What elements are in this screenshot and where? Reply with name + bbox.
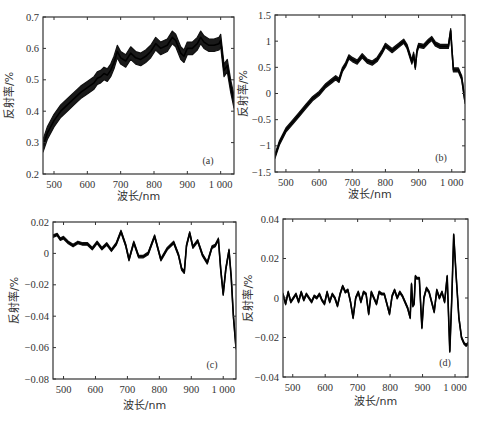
x-axis-label: 波长/nm <box>123 399 166 412</box>
x-tick-label: 500 <box>46 179 62 190</box>
x-tick-label: 900 <box>411 177 427 188</box>
y-tick-label: 0.04 <box>261 214 280 225</box>
y-tick-label: −1 <box>260 140 271 151</box>
x-tick-label: 600 <box>88 384 104 395</box>
y-tick-label: −1.5 <box>252 167 271 178</box>
x-tick-label: 1 000 <box>443 382 467 393</box>
y-tick-label: −0.04 <box>255 372 280 383</box>
subplot-c: 5006007008009001 000−0.08−0.06−0.04−0.02… <box>7 217 236 413</box>
panel-label: (b) <box>435 152 447 164</box>
subplot-b: 5006007008009001 000−1.5−1−0.500.511.5波长… <box>236 10 465 202</box>
y-tick-label: 1 <box>266 36 271 47</box>
y-tick-label: 0.3 <box>26 137 39 148</box>
figure-canvas: 5006007008009001 0000.20.30.40.50.60.7波长… <box>0 0 484 424</box>
x-tick-label: 1 000 <box>211 384 235 395</box>
y-tick-label: 0 <box>266 88 271 99</box>
y-tick-label: 0 <box>44 248 49 259</box>
spectra-lines <box>275 29 465 159</box>
axes-frame <box>53 222 236 379</box>
spectra-lines <box>283 234 468 352</box>
x-tick-label: 500 <box>278 177 294 188</box>
axes-frame <box>275 15 465 172</box>
x-tick-label: 700 <box>113 179 129 190</box>
subplot-a: 5006007008009001 0000.20.30.40.50.60.7波长… <box>2 12 234 204</box>
x-tick-label: 800 <box>151 384 167 395</box>
y-axis-label: 反射率/% <box>2 72 16 119</box>
x-axis-label: 波长/nm <box>348 188 391 201</box>
x-tick-label: 600 <box>317 382 333 393</box>
subplot-d: 5006007008009001 000−0.04−0.0200.020.04波… <box>241 214 468 409</box>
y-tick-label: 0.02 <box>31 217 49 228</box>
x-tick-label: 700 <box>344 177 360 188</box>
panel-label: (c) <box>206 359 217 371</box>
panel-label: (d) <box>439 357 451 369</box>
x-tick-label: 500 <box>56 384 72 395</box>
x-axis-label: 波长/nm <box>117 190 160 203</box>
x-tick-label: 900 <box>179 179 195 190</box>
panel-label: (a) <box>202 155 213 167</box>
y-tick-label: 0.6 <box>26 43 39 54</box>
y-tick-label: 0.02 <box>261 253 279 264</box>
y-tick-label: −0.5 <box>252 114 271 125</box>
y-tick-label: 1.5 <box>258 10 271 21</box>
y-tick-label: 0.5 <box>258 62 271 73</box>
y-axis-label: 反射率/% <box>236 70 250 117</box>
x-tick-label: 1 000 <box>209 179 233 190</box>
x-tick-label: 900 <box>183 384 199 395</box>
x-tick-label: 700 <box>350 382 366 393</box>
y-axis-label: 反射率/% <box>241 274 255 321</box>
y-tick-label: 0.2 <box>26 169 39 180</box>
spectra-lines <box>43 31 234 152</box>
y-tick-label: 0 <box>274 293 279 304</box>
x-tick-label: 800 <box>378 177 394 188</box>
x-axis-label: 波长/nm <box>354 395 397 408</box>
y-tick-label: 0.5 <box>26 74 39 85</box>
y-tick-label: −0.08 <box>25 374 49 385</box>
y-tick-label: 0.7 <box>26 12 39 23</box>
y-axis-label: 反射率/% <box>7 277 21 324</box>
y-tick-label: −0.04 <box>25 311 50 322</box>
x-tick-label: 700 <box>120 384 136 395</box>
x-tick-label: 1 000 <box>440 177 464 188</box>
x-tick-label: 900 <box>415 382 431 393</box>
x-tick-label: 800 <box>382 382 398 393</box>
y-tick-label: −0.02 <box>25 279 49 290</box>
x-tick-label: 500 <box>285 382 301 393</box>
spectra-lines <box>53 230 236 349</box>
x-tick-label: 800 <box>146 179 162 190</box>
y-tick-label: −0.06 <box>25 342 49 353</box>
x-tick-label: 600 <box>79 179 95 190</box>
y-tick-label: −0.02 <box>255 332 279 343</box>
x-tick-label: 600 <box>311 177 327 188</box>
y-tick-label: 0.4 <box>26 106 40 117</box>
